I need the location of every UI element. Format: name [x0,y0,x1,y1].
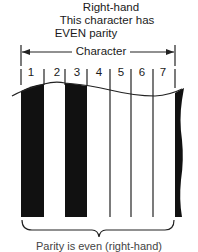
module-number: 5 [114,66,128,78]
module-number: 1 [24,66,38,78]
module-number: 6 [135,66,149,78]
module-number: 4 [92,66,106,78]
module-number: 3 [70,66,84,78]
bar-module-3 [65,83,87,217]
next-character-bar [175,88,184,217]
brace [22,220,174,237]
module-ticks [21,69,175,217]
bar-module-1 [21,84,44,217]
module-number: 2 [50,66,64,78]
character-label: Character [72,45,130,57]
module-number: 7 [156,66,170,78]
footer-text-truncated: Parity is even (right-hand) [0,240,198,252]
